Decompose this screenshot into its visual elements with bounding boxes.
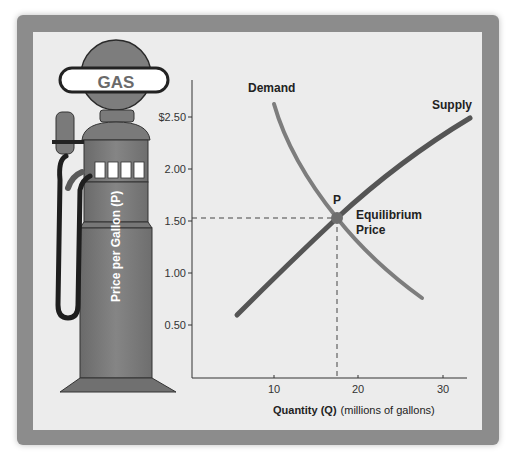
equilibrium-point [331, 212, 343, 224]
supply-label: Supply [432, 98, 472, 112]
equilibrium-price-label: Price [356, 223, 386, 237]
x-tick-label: 10 [268, 383, 280, 395]
supply-curve [237, 118, 470, 315]
y-tick-label: 1.00 [165, 267, 186, 279]
x-tick-label: 20 [352, 383, 364, 395]
nozzle-icon [56, 112, 74, 154]
demand-label: Demand [248, 81, 295, 95]
y-ticks: $2.50 2.00 1.50 1.00 0.50 [158, 111, 192, 331]
y-tick-label: 0.50 [165, 319, 186, 331]
point-p-label: P [333, 193, 341, 207]
equilibrium-label: Equilibrium [356, 208, 422, 222]
y-tick-label: 1.50 [165, 215, 186, 227]
x-tick-label: 30 [437, 383, 449, 395]
demand-curve [274, 104, 422, 298]
x-axis-label: Quantity (Q)(millions of gallons) [273, 404, 435, 416]
y-tick-label: 2.00 [165, 163, 186, 175]
y-axis-label: Price per Gallon (P) [109, 191, 123, 302]
y-tick-label: $2.50 [158, 111, 186, 123]
supply-demand-chart: GAS Price per Gallon (P) [0, 0, 509, 458]
gas-sign-text: GAS [98, 73, 135, 92]
